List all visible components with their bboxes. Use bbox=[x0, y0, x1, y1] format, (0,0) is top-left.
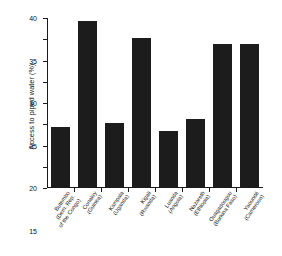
bar bbox=[132, 38, 151, 187]
bar-chart: Access to piped water (%) 05101520253035… bbox=[0, 0, 282, 256]
bar bbox=[240, 44, 259, 186]
bar bbox=[159, 131, 178, 186]
y-axis-label: Access to piped water (%) bbox=[27, 32, 36, 182]
bar bbox=[78, 21, 97, 187]
bar bbox=[105, 123, 124, 187]
y-tick-label: 40 bbox=[29, 15, 37, 22]
x-axis-labels: Butembo (Dem. Rep. of the Congo)Conakry … bbox=[47, 190, 263, 256]
y-tick-label: 20 bbox=[29, 185, 37, 192]
y-tick-label: 30 bbox=[29, 100, 37, 107]
bar bbox=[51, 127, 70, 187]
y-tick-label: 35 bbox=[29, 57, 37, 64]
bar bbox=[213, 44, 232, 186]
y-tick-label: 25 bbox=[29, 142, 37, 149]
bar bbox=[186, 119, 205, 187]
bar-series bbox=[47, 18, 263, 187]
y-tick-mark: 0 bbox=[43, 188, 47, 189]
plot-area: 0510152025303540 bbox=[47, 18, 263, 188]
